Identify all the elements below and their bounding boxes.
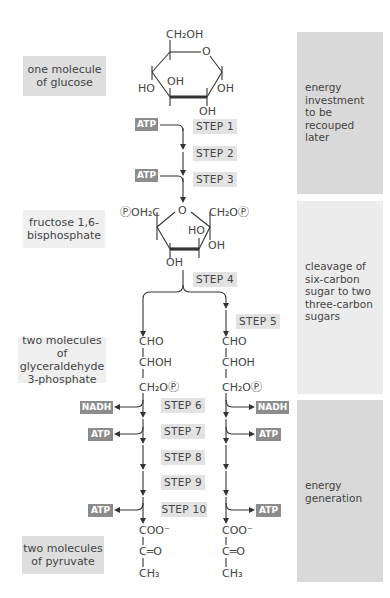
glucose-ho-left: HO [138,82,155,95]
glucose-oh-inner: OH [167,75,184,88]
step-5: STEP 5 [236,314,280,329]
g3p-left-ch2op: CH₂OⓅ [139,378,179,394]
fructose-ho: HO [188,224,205,237]
atp-output-left-step-7: ATP [88,428,113,441]
atp-input-step-3: ATP [135,169,158,182]
fructose-oh-bottom: OH [166,256,183,269]
glucose-oh-bottom: OH [199,105,216,118]
nadh-output-left: NADH [80,401,113,414]
fructose-oh-right: OH [208,239,225,252]
step-4: STEP 4 [193,272,237,287]
atp-output-right-step-10: ATP [256,504,281,517]
fructose-left-group: ⓅOH₂C [120,203,160,219]
glucose-ring-icon [152,40,222,106]
step-8: STEP 8 [161,450,205,465]
step-1: STEP 1 [193,119,237,134]
pyruvate-left-ch3: CH₃ [139,567,159,580]
fructose-ring-oxygen: O [178,204,187,217]
atp-input-step-1: ATP [135,118,158,131]
atp-output-right-step-7: ATP [256,428,281,441]
step-2: STEP 2 [193,146,237,161]
step-9: STEP 9 [161,475,205,490]
glucose-ch2oh: CH₂OH [166,28,203,41]
glucose-ring-oxygen: O [202,45,211,58]
pyruvate-right-ch3: CH₃ [222,567,242,580]
step-7: STEP 7 [161,424,205,439]
step-3: STEP 3 [193,172,237,187]
g3p-right-ch2op: CH₂OⓅ [222,378,262,394]
g3p-right-choh: CHOH [222,356,255,369]
g3p-left-cho: CHO [139,335,164,348]
g3p-left-choh: CHOH [139,356,172,369]
step-6: STEP 6 [161,398,205,413]
g3p-right-cho: CHO [222,335,247,348]
pyruvate-right-co: C═O [222,545,245,558]
pyruvate-left-co: C═O [139,545,162,558]
fructose-right-group: CH₂OⓅ [209,203,249,219]
pyruvate-left-coo: COO⁻ [139,524,170,537]
glucose-oh-right: OH [217,82,234,95]
atp-output-left-step-10: ATP [88,504,113,517]
nadh-output-right: NADH [256,401,289,414]
pyruvate-right-coo: COO⁻ [222,524,253,537]
step-10: STEP 10 [161,502,207,517]
